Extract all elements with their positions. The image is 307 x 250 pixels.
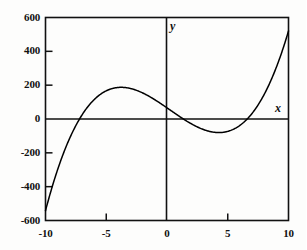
x-tick-label: 0	[147, 227, 187, 239]
y-axis-label: y	[170, 19, 175, 34]
x-axis-label: x	[275, 101, 281, 116]
plot-canvas	[0, 0, 306, 250]
y-tick-label: 0	[2, 112, 40, 124]
y-tick-label: -200	[2, 146, 40, 158]
y-tick-label: 200	[2, 78, 40, 90]
y-tick-label: 400	[2, 44, 40, 56]
y-tick-label: -600	[2, 214, 40, 226]
y-tick-label: 600	[2, 11, 40, 23]
x-tick-label: -5	[86, 227, 126, 239]
x-tick-label: 10	[269, 227, 307, 239]
x-tick-label: -10	[26, 227, 66, 239]
figure-container: 6004002000-200-400-600 -10-50510 y x	[0, 0, 306, 250]
y-tick-label: -400	[2, 180, 40, 192]
x-tick-label: 5	[208, 227, 248, 239]
